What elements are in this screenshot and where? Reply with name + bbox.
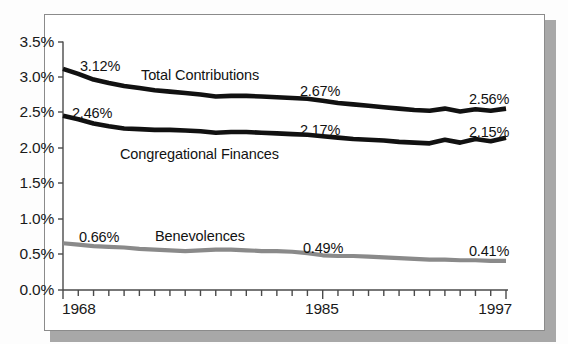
x-axis-tick-label: 1985 bbox=[305, 300, 339, 318]
y-axis-tick-label: 2.0% bbox=[0, 139, 54, 157]
data-value-label: 0.66% bbox=[79, 229, 119, 245]
series-line-congregational-finances bbox=[63, 116, 506, 144]
series-name-label: Congregational Finances bbox=[120, 146, 279, 162]
data-value-label: 2.15% bbox=[469, 124, 509, 140]
data-value-label: 2.17% bbox=[300, 122, 340, 138]
data-value-label: 0.49% bbox=[303, 240, 343, 256]
y-axis-tick-label: 0.0% bbox=[0, 281, 54, 299]
line-chart-plot bbox=[0, 0, 568, 344]
series-line-benevolences bbox=[63, 243, 506, 261]
data-value-label: 2.46% bbox=[72, 105, 112, 121]
chart-figure: 3.5%3.0%2.5%2.0%1.5%1.0%0.5%0.0%19681985… bbox=[0, 0, 568, 344]
series-name-label: Benevolences bbox=[155, 228, 245, 244]
data-value-label: 2.56% bbox=[469, 91, 509, 107]
y-axis-tick-label: 1.0% bbox=[0, 210, 54, 228]
data-value-label: 0.41% bbox=[469, 243, 509, 259]
data-value-label: 3.12% bbox=[80, 58, 120, 74]
y-axis-tick-label: 3.5% bbox=[0, 33, 54, 51]
series-name-label: Total Contributions bbox=[141, 67, 259, 83]
x-axis-tick-label: 1968 bbox=[62, 300, 96, 318]
y-axis-tick-label: 3.0% bbox=[0, 68, 54, 86]
y-axis-tick-label: 0.5% bbox=[0, 245, 54, 263]
data-value-label: 2.67% bbox=[300, 83, 340, 99]
y-axis-tick-label: 2.5% bbox=[0, 103, 54, 121]
x-axis-tick-label: 1997 bbox=[478, 300, 512, 318]
series-line-total-contributions bbox=[63, 69, 506, 112]
y-axis-tick-label: 1.5% bbox=[0, 174, 54, 192]
